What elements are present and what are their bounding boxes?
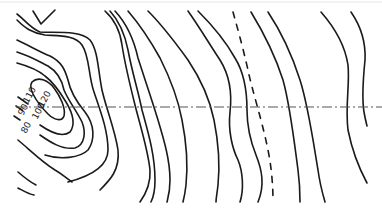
contour-label-110: 110 [21, 85, 38, 105]
contour-line [128, 11, 187, 202]
contour-line [14, 116, 20, 120]
contour-label-80: 80 [19, 120, 33, 135]
contour-line [33, 10, 55, 24]
contour-line [321, 12, 367, 183]
contour-line [18, 140, 72, 182]
contour-line [18, 172, 36, 185]
contour-line [18, 188, 34, 195]
contour-line [351, 12, 367, 126]
contour-diagram: 110 120 90 100 80 [0, 0, 382, 221]
contour-labels: 110 120 90 100 80 [16, 85, 53, 135]
